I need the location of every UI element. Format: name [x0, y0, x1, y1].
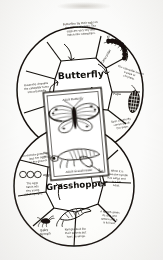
segment-g-bottom: Nymphs look like their parents but have … — [65, 228, 87, 239]
segment-b-right-label: Pupa — [113, 92, 121, 96]
svg-text:Nymphs look like t: Nymphs look like their parents but have … — [65, 228, 87, 239]
segment-b-top: Butterflies lay their eggs on the leaves… — [63, 21, 99, 37]
life-cycle-wheel-diagram: Butterfly Butterflies lay their eggs on … — [0, 0, 163, 260]
svg-text:Butterflies lay their eggs on: Butterflies lay their eggs on the leaves… — [63, 21, 99, 37]
segment-g-lower-left-label: Baby Nymph — [39, 228, 51, 237]
